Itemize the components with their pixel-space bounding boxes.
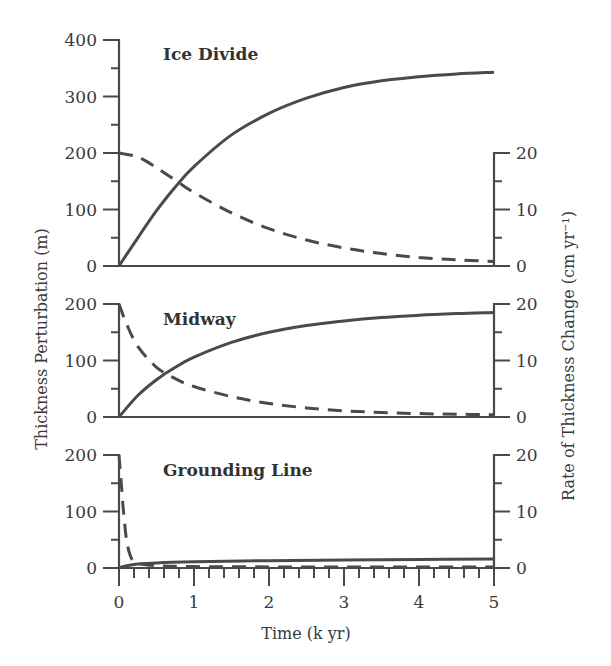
right-tick-label: 0 xyxy=(516,256,527,276)
rate-of-change-dashed-line xyxy=(119,153,494,262)
right-tick-label: 10 xyxy=(516,351,538,371)
x-axis-title: Time (k yr) xyxy=(261,624,350,643)
panel-title: Grounding Line xyxy=(163,460,313,480)
left-tick-label: 300 xyxy=(65,87,97,107)
left-tick-label: 0 xyxy=(86,256,97,276)
panel-title: Midway xyxy=(163,309,237,329)
panel-grounding-line: 010020001020Grounding Line012345 xyxy=(65,445,538,612)
panel-ice-divide: 010020030040001020Ice Divide xyxy=(65,30,538,276)
left-tick-label: 100 xyxy=(65,502,97,522)
chart-figure: 010020030040001020Ice Divide010020001020… xyxy=(0,0,611,666)
x-tick-label: 4 xyxy=(414,592,425,612)
left-tick-label: 0 xyxy=(86,407,97,427)
panels-group: 010020030040001020Ice Divide010020001020… xyxy=(65,30,538,612)
left-tick-label: 200 xyxy=(65,294,97,314)
x-tick-label: 1 xyxy=(189,592,200,612)
left-tick-label: 100 xyxy=(65,351,97,371)
left-tick-label: 0 xyxy=(86,558,97,578)
panel-title: Ice Divide xyxy=(163,44,258,64)
right-tick-label: 0 xyxy=(516,407,527,427)
right-tick-label: 20 xyxy=(516,143,538,163)
left-tick-label: 400 xyxy=(65,30,97,50)
right-tick-label: 10 xyxy=(516,502,538,522)
right-tick-label: 20 xyxy=(516,294,538,314)
x-tick-label: 3 xyxy=(339,592,350,612)
x-tick-label: 2 xyxy=(264,592,275,612)
right-tick-label: 0 xyxy=(516,558,527,578)
left-tick-label: 100 xyxy=(65,200,97,220)
x-tick-label: 5 xyxy=(489,592,500,612)
left-tick-label: 200 xyxy=(65,143,97,163)
panel-midway: 010020001020Midway xyxy=(65,294,538,427)
right-tick-label: 10 xyxy=(516,200,538,220)
x-tick-label: 0 xyxy=(114,592,125,612)
right-tick-label: 20 xyxy=(516,445,538,465)
right-y-axis-title: Rate of Thickness Change (cm yr⁻¹) xyxy=(559,211,578,501)
thickness-perturbation-line xyxy=(119,72,494,266)
left-tick-label: 200 xyxy=(65,445,97,465)
left-y-axis-title: Thickness Perturbation (m) xyxy=(32,228,51,450)
